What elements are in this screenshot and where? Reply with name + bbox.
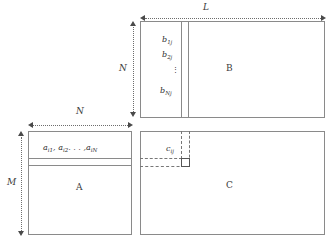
matrix-A-row-strip-top-edge <box>29 158 131 159</box>
element-sub-cij: ij <box>170 148 173 154</box>
result-cell-cij <box>181 158 190 167</box>
arrow-down-icon-M <box>18 231 24 236</box>
matrix-B-column-strip-right-edge <box>188 22 189 117</box>
dimension-line-M <box>21 137 23 231</box>
element-sub-bNj: Nj <box>165 90 172 96</box>
element-sub-b2j: 2j <box>167 54 172 60</box>
guide-line-horizontal-top <box>140 158 182 159</box>
dimension-line-L <box>145 18 321 20</box>
matrix-multiplication-diagram: L N B b1j b2j ⋮ bNj N M A ai1, ai2. . . … <box>0 0 332 243</box>
matrix-letter-A: A <box>76 182 83 192</box>
arrow-left-icon-N-horizontal <box>28 122 33 128</box>
dimension-line-N-horizontal <box>33 125 128 127</box>
element-sub-ai1: i1 <box>48 147 53 153</box>
element-sub-b1j: 1j <box>167 39 172 45</box>
vertical-ellipsis-B: ⋮ <box>172 67 179 74</box>
guide-line-vertical-left <box>181 131 182 159</box>
arrow-up-icon-N-vertical <box>130 21 136 26</box>
dimension-label-N-vertical: N <box>119 63 127 73</box>
dimension-label-N-horizontal: N <box>76 106 84 116</box>
dimension-label-L: L <box>203 2 209 12</box>
element-label-cij: cij <box>166 144 174 153</box>
element-label-a-row: ai1, ai2. . . ,aiN <box>43 143 97 152</box>
element-sub-ai2: i2 <box>63 147 68 153</box>
matrix-letter-C: C <box>226 180 233 190</box>
matrix-letter-A-text: A <box>76 182 83 192</box>
element-label-b1j: b1j <box>162 35 172 44</box>
dimension-line-N-vertical <box>133 27 135 112</box>
element-label-bNj: bNj <box>160 86 172 95</box>
matrix-letter-B: B <box>226 63 233 73</box>
element-label-b2j: b2j <box>162 50 172 59</box>
ellipsis-a-row: . . . , <box>68 143 86 152</box>
arrow-up-icon-M <box>18 131 24 136</box>
dimension-label-M: M <box>7 177 16 187</box>
arrow-down-icon-N-vertical <box>130 112 136 117</box>
element-sub-aiN: iN <box>91 147 98 153</box>
arrow-right-icon-N-horizontal <box>128 122 133 128</box>
matrix-B-column-strip-left-edge <box>181 22 182 117</box>
matrix-A-row-strip-bottom-edge <box>29 165 131 166</box>
